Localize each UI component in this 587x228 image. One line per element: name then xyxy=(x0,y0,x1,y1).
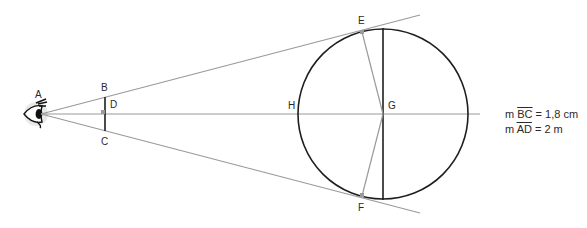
label-point-c: C xyxy=(101,137,108,147)
right-angle-marker-f xyxy=(360,193,364,197)
line-af-tangent xyxy=(41,114,420,213)
right-angle-marker-e xyxy=(360,30,364,34)
segment-ad-label: AD xyxy=(517,123,532,135)
label-point-a: A xyxy=(35,90,42,100)
right-angle-marker-d xyxy=(101,110,105,114)
legend-bc: m BC = 1,8 cm xyxy=(505,108,578,120)
label-point-h: H xyxy=(288,101,295,111)
diagram-canvas: A B C D E F G H m BC = 1,8 cm m AD = 2 m xyxy=(0,0,587,228)
line-ae-tangent xyxy=(41,15,420,114)
segment-bc-label: BC xyxy=(517,108,532,120)
legend-ad: m AD = 2 m xyxy=(505,123,563,135)
label-point-e: E xyxy=(358,16,365,26)
radius-ge xyxy=(362,32,383,114)
label-point-g: G xyxy=(388,101,396,111)
radius-gf xyxy=(362,114,383,196)
geometry-figure xyxy=(0,0,587,228)
label-point-f: F xyxy=(358,203,364,213)
label-point-d: D xyxy=(110,100,117,110)
label-point-b: B xyxy=(101,83,108,93)
